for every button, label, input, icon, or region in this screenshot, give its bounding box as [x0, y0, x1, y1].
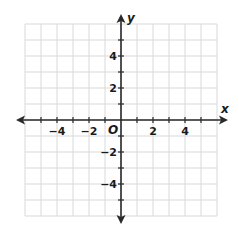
coordinate-plane: y x O −4−224 42−2−4 — [0, 0, 239, 232]
origin-label: O — [108, 123, 118, 137]
x-tick-label: −4 — [49, 125, 66, 138]
y-tick-label: 4 — [109, 50, 117, 63]
x-tick-label: −2 — [81, 125, 98, 138]
y-tick-label: −2 — [100, 146, 117, 159]
x-tick-label: 4 — [181, 125, 189, 138]
y-tick-label: −4 — [100, 178, 117, 191]
x-axis-label: x — [220, 102, 230, 116]
y-tick-label: 2 — [109, 82, 117, 95]
y-axis-label: y — [127, 11, 136, 25]
x-tick-label: 2 — [149, 125, 157, 138]
